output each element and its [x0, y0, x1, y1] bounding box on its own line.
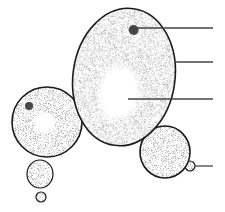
left-cell [12, 87, 82, 157]
cells-layer [12, 2, 195, 202]
left-bud [27, 160, 53, 188]
left-small-bud [36, 192, 46, 202]
nucleus [25, 102, 33, 110]
vacuole [33, 111, 57, 135]
yeast-cell-diagram [0, 0, 225, 212]
